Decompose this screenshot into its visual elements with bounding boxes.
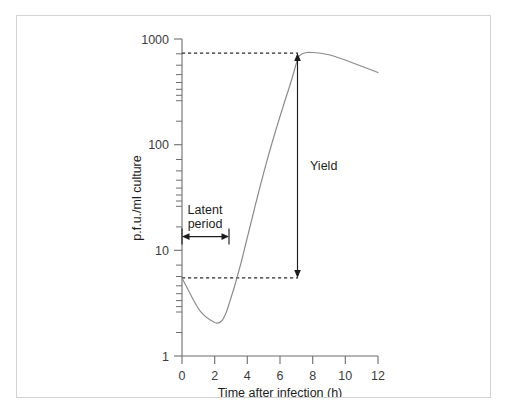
latent-period-label-line2: period <box>188 217 223 231</box>
y-tick-label: 10 <box>155 244 169 258</box>
latent-period-label-line1: Latent <box>188 203 223 217</box>
y-tick-label: 1 <box>162 350 169 364</box>
x-axis-title: Time after infection (h) <box>218 386 343 397</box>
x-tick-label: 10 <box>338 369 352 383</box>
x-tick-labels: 0 2 4 6 8 10 12 <box>179 369 385 383</box>
x-ticks <box>182 356 378 364</box>
figure-root: 1000 100 10 1 0 2 4 6 8 10 12 Time after… <box>0 0 508 414</box>
latent-period-arrow-head-right <box>222 233 230 240</box>
guide-lines <box>182 53 298 278</box>
axis-group <box>182 39 378 356</box>
x-tick-label: 12 <box>371 369 385 383</box>
figure-border: 1000 100 10 1 0 2 4 6 8 10 12 Time after… <box>16 15 491 398</box>
y-minor-ticks <box>176 54 182 333</box>
x-tick-label: 6 <box>277 369 284 383</box>
x-tick-label: 4 <box>244 369 251 383</box>
yield-label: Yield <box>310 159 337 173</box>
yield-arrow-head-bottom <box>294 270 301 278</box>
one-step-growth-curve-chart: 1000 100 10 1 0 2 4 6 8 10 12 Time after… <box>17 16 490 397</box>
y-tick-label: 1000 <box>141 33 169 47</box>
x-tick-label: 8 <box>309 369 316 383</box>
yield-annotation: Yield <box>294 53 337 278</box>
y-axis-title: p.f.u./ml culture <box>130 155 144 240</box>
x-tick-label: 0 <box>179 369 186 383</box>
yield-arrow-head-top <box>294 53 301 61</box>
y-tick-label: 100 <box>148 138 169 152</box>
x-tick-label: 2 <box>211 369 218 383</box>
y-tick-labels: 1000 100 10 1 <box>141 33 169 364</box>
growth-curve-line <box>182 52 378 323</box>
latent-period-annotation: Latent period <box>182 203 229 245</box>
y-major-ticks <box>174 39 182 356</box>
latent-period-arrow-head-left <box>182 233 190 240</box>
